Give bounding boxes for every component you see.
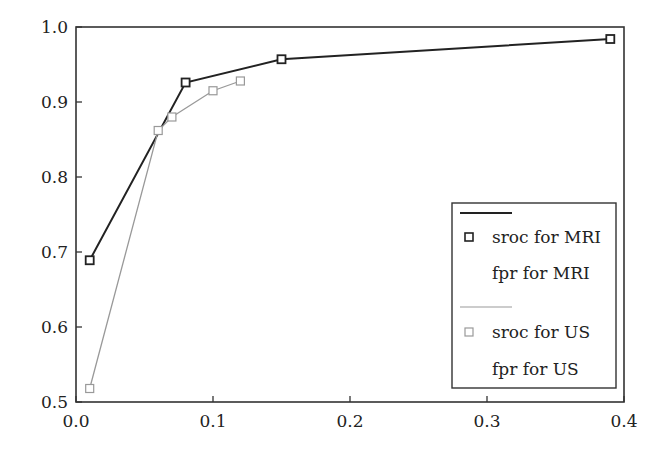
y-tick-label: 0.5 (41, 392, 68, 412)
y-tick-label: 0.9 (41, 92, 68, 112)
legend-label: sroc for MRI (492, 227, 601, 247)
legend-us-marker (465, 328, 473, 336)
data-marker-square (278, 55, 286, 63)
x-tick-label: 0.3 (473, 411, 500, 431)
roc-chart: 0.00.10.20.30.40.50.60.70.80.91.0sroc fo… (0, 0, 668, 465)
data-marker-square (236, 77, 244, 85)
data-marker-square (154, 127, 162, 135)
legend-mri-marker (465, 233, 473, 241)
x-tick-label: 0.0 (62, 411, 89, 431)
legend-label: fpr for MRI (492, 263, 590, 283)
data-marker-square (606, 35, 614, 43)
data-marker-square (86, 385, 94, 393)
legend-label: sroc for US (492, 322, 590, 342)
x-tick-label: 0.1 (199, 411, 226, 431)
data-marker-square (182, 79, 190, 87)
x-tick-label: 0.2 (336, 411, 363, 431)
y-tick-label: 0.8 (41, 167, 68, 187)
data-marker-square (86, 256, 94, 264)
y-tick-label: 0.6 (41, 317, 68, 337)
y-tick-label: 0.7 (41, 242, 68, 262)
series-line-2 (90, 81, 241, 389)
y-tick-label: 1.0 (41, 17, 68, 37)
x-tick-label: 0.4 (610, 411, 637, 431)
legend-label: fpr for US (492, 359, 579, 379)
data-marker-square (168, 113, 176, 121)
data-marker-square (209, 87, 217, 95)
